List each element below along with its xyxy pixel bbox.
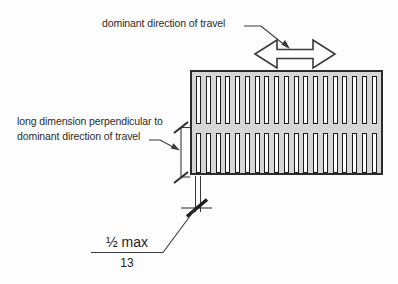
grate-slot bbox=[294, 76, 299, 124]
grate-slot bbox=[206, 133, 211, 173]
grate-slot bbox=[284, 133, 289, 173]
double-arrow-horizontal-icon bbox=[255, 40, 335, 68]
label-long-dimension-line2: dominant direction of travel bbox=[17, 129, 163, 144]
grate-slot bbox=[196, 133, 201, 173]
grate-slot bbox=[362, 133, 367, 173]
grate-slot bbox=[235, 133, 240, 173]
grate-slot bbox=[342, 76, 347, 124]
grate-slot bbox=[225, 133, 230, 173]
leader-arrowhead-left bbox=[171, 143, 180, 150]
grate-slot bbox=[313, 133, 318, 173]
dim-tick-top bbox=[174, 122, 188, 133]
grate-slot bbox=[333, 133, 338, 173]
label-dominant-direction: dominant direction of travel bbox=[102, 17, 225, 29]
grate-slot bbox=[264, 133, 269, 173]
grate-slot bbox=[235, 76, 240, 124]
grate-slot bbox=[372, 133, 377, 173]
dimension-imperial: ½ max bbox=[91, 234, 163, 251]
grate-slot bbox=[372, 76, 377, 124]
dimension-metric: 13 bbox=[91, 256, 163, 270]
grate bbox=[190, 70, 383, 175]
grate-slot bbox=[313, 76, 318, 124]
leader-arrowhead-top bbox=[281, 40, 290, 49]
grate-slot bbox=[294, 133, 299, 173]
grate-slot bbox=[206, 76, 211, 124]
grate-slot bbox=[245, 76, 250, 124]
grate-slot bbox=[284, 76, 289, 124]
grate-slot bbox=[274, 133, 279, 173]
grate-slot bbox=[264, 76, 269, 124]
elongated-openings-diagram: dominant direction of travel long dimens… bbox=[0, 0, 398, 284]
grate-row-top bbox=[196, 76, 377, 124]
grate-slot bbox=[216, 133, 221, 173]
grate-slot bbox=[352, 133, 357, 173]
grate-slot bbox=[274, 76, 279, 124]
grate-slot bbox=[323, 76, 328, 124]
dimension-label: ½ max bbox=[91, 234, 163, 251]
dim-tick-bottom bbox=[174, 172, 188, 183]
grate-slot bbox=[333, 76, 338, 124]
grate-slot bbox=[342, 133, 347, 173]
leader-dominant-direction bbox=[244, 26, 287, 47]
label-long-dimension: long dimension perpendicular to dominant… bbox=[17, 114, 163, 143]
grate-slot bbox=[352, 76, 357, 124]
grate-slot bbox=[303, 133, 308, 173]
grate-slot bbox=[245, 133, 250, 173]
grate-slot bbox=[362, 76, 367, 124]
grate-slot bbox=[225, 76, 230, 124]
label-long-dimension-line1: long dimension perpendicular to bbox=[17, 114, 163, 129]
grate-slot bbox=[255, 133, 260, 173]
grate-row-bottom bbox=[196, 133, 377, 173]
grate-slot bbox=[216, 76, 221, 124]
grate-slot bbox=[255, 76, 260, 124]
grate-slot bbox=[196, 76, 201, 124]
grate-slot bbox=[323, 133, 328, 173]
grate-slot bbox=[303, 76, 308, 124]
dim-tick-thick bbox=[187, 200, 207, 217]
